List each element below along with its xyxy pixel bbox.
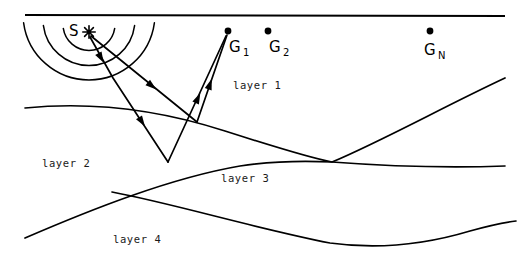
geophone-dot-g2	[265, 28, 272, 35]
diagram-canvas: S G 1 G 2 G N layer 1 layer 2 layer 3 la…	[0, 0, 521, 270]
ray-arrowhead	[95, 51, 104, 62]
geophone-sublabel-g2: 2	[283, 47, 289, 58]
source-burst-icon	[83, 26, 95, 38]
source-center-dot	[87, 30, 92, 35]
geophone-sublabel-gn: N	[438, 50, 445, 61]
layer-label-3: layer 3	[221, 172, 269, 184]
source-label: S	[69, 22, 79, 40]
ray-arrowhead	[192, 93, 200, 105]
seismic-ray-diagram: S G 1 G 2 G N layer 1 layer 2 layer 3 la…	[0, 0, 521, 270]
ground-surface-line	[25, 15, 505, 16]
geophone-sublabel-g1: 1	[243, 47, 249, 58]
geophone-dots-group	[225, 28, 434, 35]
upgoing-ray-shallow-to-G1	[197, 35, 227, 122]
ray-arrowheads-group	[95, 51, 212, 126]
ray-arrowhead	[136, 115, 145, 126]
layer-label-4: layer 4	[113, 233, 161, 245]
downgoing-ray-shallow	[91, 36, 197, 122]
ray-paths-group	[90, 35, 227, 162]
geophone-label-g2: G	[269, 38, 281, 56]
layer-label-1: layer 1	[233, 79, 281, 91]
geophone-label-g1: G	[229, 38, 241, 56]
geophone-dot-g1	[225, 28, 232, 35]
geophone-label-gn: G	[424, 41, 436, 59]
layer-label-2: layer 2	[42, 157, 90, 169]
layer3-layer4-interface	[112, 192, 516, 246]
geophone-dot-gn	[427, 28, 434, 35]
